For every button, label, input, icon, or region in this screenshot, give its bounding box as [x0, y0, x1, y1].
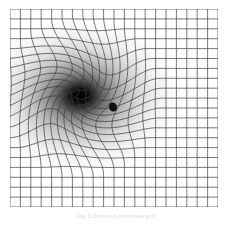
- warped-grid-plot: [0, 0, 232, 226]
- figure-root: Fig. 1 Distorted coordinate grid: [0, 0, 232, 226]
- figure-caption: Fig. 1 Distorted coordinate grid: [0, 213, 232, 220]
